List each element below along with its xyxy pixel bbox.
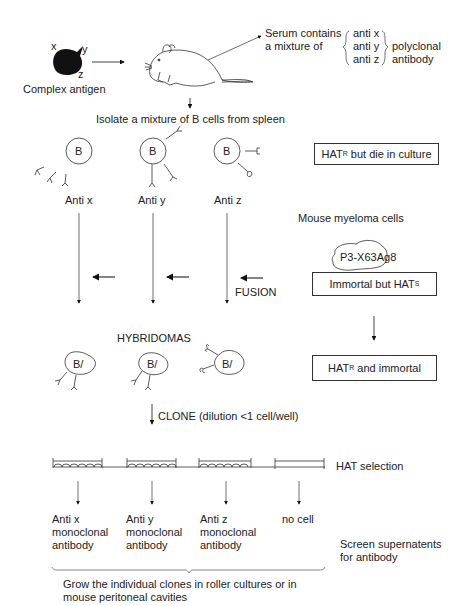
bottom-brace [52, 567, 325, 573]
mouse-illustration [145, 45, 253, 86]
result-arrows [78, 481, 299, 504]
b-cell-anti-y-label: Anti y [138, 194, 166, 207]
b-cell-letter: B [75, 145, 82, 158]
grow-clones-label: Grow the individual clones in roller cul… [63, 578, 297, 604]
hat-r-immortal-main: HAT [328, 362, 349, 374]
mouse-to-serum-arrow [208, 36, 261, 60]
hat-r-die-box: HATR but die in culture [314, 143, 439, 165]
serum-line1: Serum contains [265, 27, 341, 40]
hybridoma-cell-label: B/ [222, 358, 232, 371]
result-line: antibody [52, 539, 108, 552]
result-line: antibody [126, 539, 182, 552]
serum-left-brace [343, 31, 349, 65]
hybridomas-title: HYBRIDOMAS [117, 332, 191, 345]
mouse-myeloma-label: Mouse myeloma cells [298, 212, 404, 225]
fusion-label: FUSION [235, 286, 277, 299]
hat-r-immortal-rest: and immortal [354, 362, 421, 374]
result-no-cell: no cell [282, 513, 314, 526]
culture-wells [53, 458, 325, 469]
hat-r-die-main: HAT [321, 148, 342, 160]
clone-label: CLONE (dilution <1 cell/well) [158, 410, 298, 423]
hat-r-immortal-box: HATR and immortal [312, 355, 437, 381]
epitope-z-label: z [78, 68, 84, 81]
complex-antigen-label: Complex antigen [23, 83, 106, 96]
result-line: Anti z [200, 513, 256, 526]
serum-right-brace [382, 31, 388, 65]
screen-supernatants-label: Screen supernatents for antibody [340, 538, 442, 564]
screen-line: Screen supernatents [340, 538, 442, 551]
immortal-hat-s-box: Immortal but HATS [312, 272, 437, 296]
antibody-label: antibody [392, 53, 434, 66]
result-anti-z: Anti z monoclonal antibody [200, 513, 256, 552]
b-cell-anti-z-label: Anti z [214, 194, 242, 207]
serum-anti-z: anti z [353, 53, 379, 66]
result-line: antibody [200, 539, 256, 552]
grow-line: mouse peritoneal cavities [63, 591, 297, 604]
cell-line-label: P3-X63Ag8 [340, 251, 396, 264]
hybridoma-cell-label: B/ [73, 358, 83, 371]
hat-selection-label: HAT selection [336, 460, 403, 473]
result-line: no cell [282, 513, 314, 526]
b-cell-letter: B [149, 145, 156, 158]
hat-r-die-rest: but die in culture [348, 148, 432, 160]
b-cell-anti-x-label: Anti x [65, 194, 93, 207]
serum-line2: a mixture of [265, 40, 322, 53]
serum-anti-y: anti y [353, 40, 379, 53]
isolate-b-cells-label: Isolate a mixture of B cells from spleen [96, 113, 285, 126]
result-line: monoclonal [200, 526, 256, 539]
result-anti-y: Anti y monoclonal antibody [126, 513, 182, 552]
result-line: monoclonal [52, 526, 108, 539]
b-cell-letter: B [223, 145, 230, 158]
result-line: Anti x [52, 513, 108, 526]
serum-anti-x: anti x [353, 27, 379, 40]
result-line: Anti y [126, 513, 182, 526]
polyclonal-label: polyclonal [392, 40, 441, 53]
grow-line: Grow the individual clones in roller cul… [63, 578, 297, 591]
epitope-x-label: x [51, 40, 57, 53]
screen-line: for antibody [340, 551, 442, 564]
result-anti-x: Anti x monoclonal antibody [52, 513, 108, 552]
epitope-y-label: y [82, 43, 88, 56]
hybridoma-cell-label: B/ [147, 358, 157, 371]
result-line: monoclonal [126, 526, 182, 539]
immortal-box-main: Immortal but HAT [329, 278, 414, 290]
